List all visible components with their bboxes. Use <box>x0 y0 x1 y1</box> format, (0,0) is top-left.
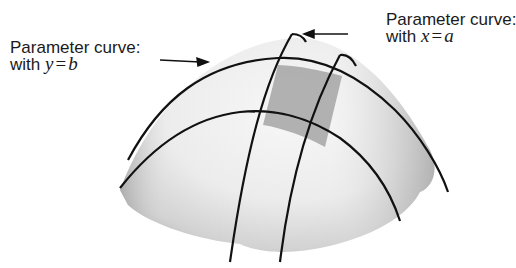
label-left-eq: = <box>53 53 68 74</box>
label-left-prefix: with <box>10 55 45 74</box>
label-left-line2: with y=b <box>10 56 140 73</box>
arrow-left-line <box>160 60 200 62</box>
label-right-eq: = <box>429 25 444 46</box>
arrow-left-head <box>197 58 208 66</box>
label-right-prefix: with <box>386 27 421 46</box>
label-curve-x-equals-a: Parameter curve: with x=a <box>386 12 516 45</box>
label-right-val: a <box>444 25 454 46</box>
arrow-right-head <box>304 30 314 38</box>
label-right-line2: with x=a <box>386 28 516 45</box>
label-curve-y-equals-b: Parameter curve: with y=b <box>10 40 140 73</box>
label-left-val: b <box>68 53 78 74</box>
